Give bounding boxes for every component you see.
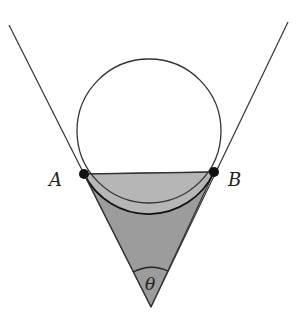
left-tangent-line <box>9 25 151 307</box>
label-b: B <box>227 169 241 190</box>
point-b-dot <box>209 167 219 177</box>
right-tangent-line <box>151 22 288 307</box>
diagram-canvas: A B θ <box>0 0 298 318</box>
circle-tangent-diagram: A B θ <box>0 0 298 318</box>
label-a: A <box>47 169 62 190</box>
point-a-dot <box>79 169 89 179</box>
label-theta: θ <box>145 274 155 294</box>
